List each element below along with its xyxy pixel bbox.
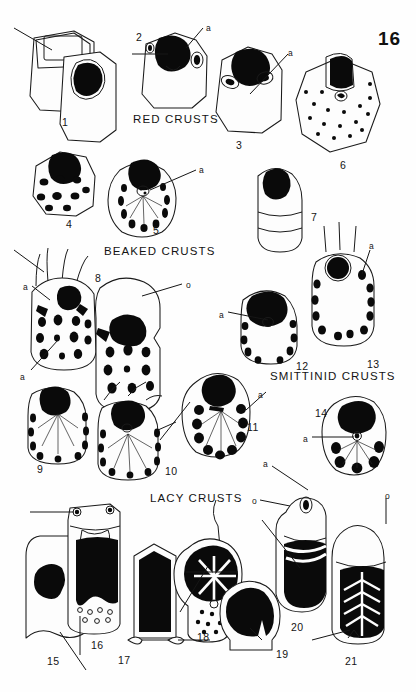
figure-number-16: 16 (91, 639, 104, 651)
figure-19-drawing (220, 581, 280, 650)
figure-number-7: 7 (311, 211, 317, 223)
figure-number-3: 3 (236, 139, 242, 151)
group-heading-beaked-crusts: BEAKED CRUSTS (104, 245, 215, 257)
figure-number-17: 17 (118, 654, 131, 666)
figure-11-drawing (182, 373, 250, 459)
figure-number-1: 1 (62, 116, 68, 128)
callout-label-a-fig2: a (206, 24, 211, 33)
figure-number-2: 2 (136, 31, 142, 43)
figure-number-15: 15 (47, 655, 60, 667)
figure-8b-drawing (96, 278, 161, 412)
figure-5-drawing (108, 159, 176, 237)
figure-7-drawing (258, 168, 302, 252)
figure-12-drawing (241, 291, 298, 364)
callout-label-a-fig12: a (219, 311, 224, 320)
callout-label-a-fig13: a (369, 242, 374, 251)
figure-number-13: 13 (367, 358, 380, 370)
figure-20-drawing (276, 497, 326, 612)
group-heading-red-crusts: RED CRUSTS (133, 113, 219, 125)
figure-13-drawing (311, 222, 374, 346)
figure-number-10: 10 (165, 465, 178, 477)
figure-4-drawing (33, 152, 95, 216)
plate-number: 16 (378, 28, 401, 50)
figure-number-5: 5 (153, 224, 159, 236)
figure-number-14: 14 (315, 407, 328, 419)
callout-label-a-fig20: a (263, 460, 268, 469)
callout-label-o-fig21: o (385, 492, 390, 501)
figure-3-drawing (216, 47, 282, 133)
figure-17-drawing (128, 544, 184, 644)
callout-label-a-fig11: a (258, 391, 263, 400)
callout-label-a-fig8: a (23, 283, 28, 292)
figure-9-drawing (28, 386, 89, 464)
figure-number-9: 9 (37, 463, 43, 475)
figure-number-6: 6 (340, 159, 346, 171)
figure-number-8: 8 (95, 272, 101, 284)
callout-label-a-fig6: a (288, 49, 293, 58)
plate-artwork (0, 0, 416, 692)
figure-number-19: 19 (276, 648, 289, 660)
group-heading-smittinid-crusts: SMITTINID CRUSTS (270, 370, 396, 382)
callout-label-o-fig20: o (252, 497, 257, 506)
figure-2-drawing (142, 33, 207, 108)
callout-label-o-fig8: o (186, 281, 191, 290)
figure-number-21: 21 (345, 655, 358, 667)
figure-14-drawing (322, 396, 386, 475)
group-heading-lacy-crusts: LACY CRUSTS (150, 492, 242, 504)
figure-6-drawing (296, 53, 380, 152)
figure-number-4: 4 (66, 218, 72, 230)
figure-21-drawing (332, 525, 386, 644)
illustration-plate: 16 RED CRUSTS BEAKED CRUSTS SMITTINID CR… (0, 0, 416, 692)
callout-label-a-fig9: a (20, 373, 25, 382)
callout-label-a-fig5: a (199, 166, 204, 175)
callout-label-a-fig14: a (303, 435, 308, 444)
figure-8-drawing (31, 248, 96, 370)
figure-16-drawing (68, 504, 120, 634)
figure-number-12: 12 (296, 360, 309, 372)
figure-1-drawing (30, 31, 116, 142)
figure-number-18: 18 (197, 631, 210, 643)
figure-number-20: 20 (291, 621, 304, 633)
figure-number-11: 11 (247, 421, 259, 433)
